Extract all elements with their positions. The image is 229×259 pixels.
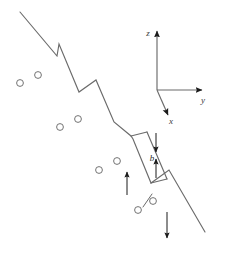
atom-circle [96, 167, 103, 174]
y-axis-label: y [200, 95, 205, 105]
slip-plane-tick [143, 194, 152, 207]
atom-circle [114, 158, 121, 165]
motion-arrows-group [127, 172, 167, 238]
atom-circle [57, 124, 64, 131]
coordinate-axes-group: z y x [145, 28, 205, 126]
dipole-upper-edge [131, 132, 147, 136]
atom-circle [135, 207, 142, 214]
slip-plane-tick-group [143, 194, 152, 207]
x-axis-icon [157, 90, 168, 115]
atom-circle [150, 198, 157, 205]
x-axis-label: x [168, 116, 173, 126]
figure-canvas: b z y x [0, 0, 229, 259]
atom-circle [75, 116, 82, 123]
atom-circle [35, 72, 42, 79]
atom-circles-group [17, 72, 157, 214]
dislocation-figure: b z y x [0, 0, 229, 259]
dislocation-line-group [20, 12, 205, 232]
z-axis-label: z [145, 28, 150, 38]
dislocation-line [20, 12, 205, 232]
atom-circle [17, 80, 24, 87]
burgers-vector-label: b [150, 153, 155, 163]
